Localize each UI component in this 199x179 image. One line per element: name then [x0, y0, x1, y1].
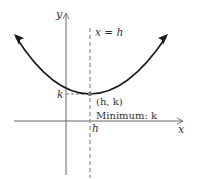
parabola-curve	[16, 37, 166, 94]
x-axis-label: x	[178, 123, 185, 136]
right-arrowhead-icon	[158, 34, 168, 45]
vertex-label: (h, k)	[96, 96, 123, 107]
minimum-label: Minimum: k	[96, 110, 158, 121]
vertex-point	[88, 92, 92, 96]
k-tick-label: k	[57, 88, 63, 100]
y-axis-label: y	[55, 8, 63, 21]
parabola-diagram: y x x = h k (h, k) Minimum: k h	[0, 0, 199, 179]
axis-of-symmetry-label: x = h	[95, 26, 123, 38]
h-tick-label: h	[92, 122, 99, 134]
left-arrowhead-icon	[14, 34, 24, 45]
